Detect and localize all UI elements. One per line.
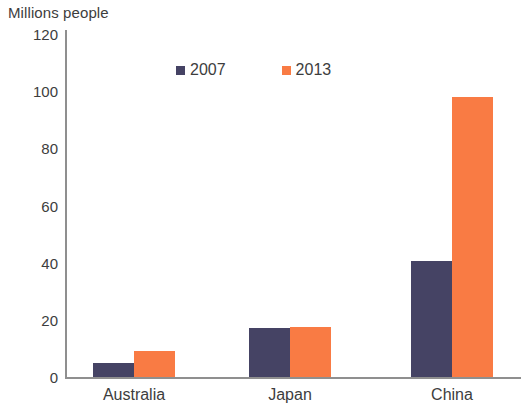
category-label-australia: Australia bbox=[103, 386, 165, 404]
bar-china-2007 bbox=[411, 261, 452, 377]
category-label-china: China bbox=[431, 386, 473, 404]
bar-japan-2013 bbox=[290, 327, 331, 377]
bar-chart-figure: Millions people 020406080100120 20072013… bbox=[0, 0, 529, 413]
bar-australia-2013 bbox=[134, 351, 175, 377]
bars-layer: AustraliaJapanChina bbox=[0, 0, 529, 413]
bar-china-2013 bbox=[452, 97, 493, 377]
category-label-japan: Japan bbox=[268, 386, 312, 404]
bar-japan-2007 bbox=[249, 328, 290, 377]
bar-australia-2007 bbox=[93, 363, 134, 377]
